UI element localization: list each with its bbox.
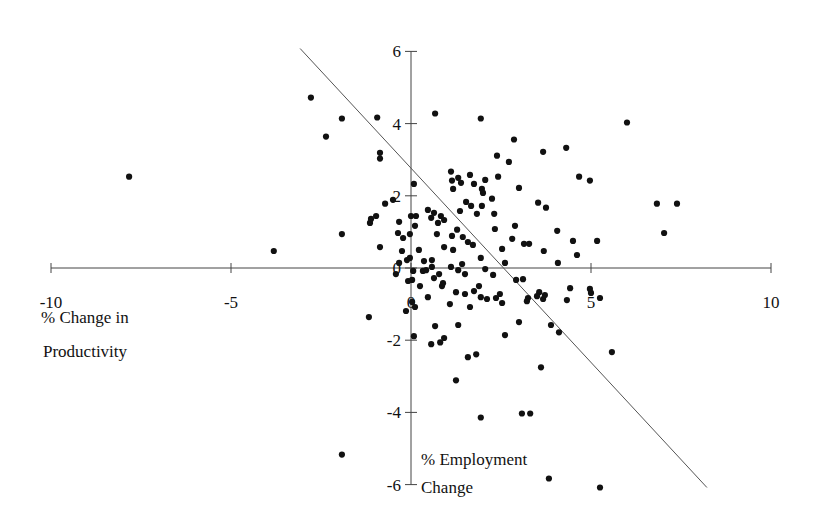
data-point <box>409 299 415 305</box>
data-point <box>564 297 570 303</box>
data-point <box>425 294 431 300</box>
data-point <box>509 236 515 242</box>
x-axis: -10-50510 <box>40 263 780 312</box>
data-point <box>463 199 469 205</box>
data-point <box>506 159 512 165</box>
data-point <box>661 230 667 236</box>
data-point <box>654 201 660 207</box>
data-point <box>407 231 413 237</box>
data-point <box>377 244 383 250</box>
data-point <box>480 190 486 196</box>
data-point <box>455 267 461 273</box>
data-point <box>489 196 495 202</box>
data-point <box>396 219 402 225</box>
y-tick-label: -2 <box>387 331 401 350</box>
data-point <box>421 258 427 264</box>
data-point <box>476 283 482 289</box>
y-axis-title-line2: Change <box>421 478 473 497</box>
data-point <box>543 205 549 211</box>
data-point <box>431 210 437 216</box>
data-point <box>535 200 541 206</box>
data-point <box>478 294 484 300</box>
data-point <box>339 231 345 237</box>
data-point <box>428 341 434 347</box>
data-point <box>609 349 615 355</box>
data-point <box>482 266 488 272</box>
data-point <box>554 228 560 234</box>
data-point <box>423 267 429 273</box>
data-point <box>516 185 522 191</box>
data-point <box>570 238 576 244</box>
data-point <box>597 484 603 490</box>
data-point <box>449 233 455 239</box>
y-tick-label: -6 <box>387 476 401 495</box>
data-point <box>534 293 540 299</box>
data-point <box>411 181 417 187</box>
data-point <box>441 244 447 250</box>
data-point <box>541 248 547 254</box>
data-point <box>271 248 277 254</box>
data-point <box>459 261 465 267</box>
data-point <box>574 252 580 258</box>
data-point <box>429 257 435 263</box>
data-point <box>526 241 532 247</box>
x-tick-label: 10 <box>763 293 780 312</box>
data-point <box>435 220 441 226</box>
data-point <box>410 268 416 274</box>
data-point <box>457 208 463 214</box>
data-point <box>519 410 525 416</box>
data-point <box>474 211 480 217</box>
data-point <box>542 292 548 298</box>
data-point <box>540 149 546 155</box>
data-point <box>597 295 603 301</box>
data-point <box>425 207 431 213</box>
data-point <box>587 178 593 184</box>
x-axis-title-line2: Productivity <box>43 342 128 361</box>
data-point <box>495 174 501 180</box>
data-point <box>513 277 519 283</box>
axis-titles: % Change in Productivity % Employment Ch… <box>41 308 528 497</box>
data-point <box>471 181 477 187</box>
data-point <box>436 271 442 277</box>
data-point <box>403 308 409 314</box>
data-point <box>520 276 526 282</box>
data-point <box>413 213 419 219</box>
data-point <box>493 295 499 301</box>
data-point <box>407 255 413 261</box>
data-point <box>502 260 508 266</box>
data-point <box>555 260 561 266</box>
data-point <box>467 172 473 178</box>
data-point <box>527 410 533 416</box>
data-points <box>126 95 680 491</box>
data-point <box>308 95 314 101</box>
data-point <box>323 134 329 140</box>
data-point <box>396 260 402 266</box>
data-point <box>441 217 447 223</box>
data-point <box>429 264 435 270</box>
data-point <box>447 301 453 307</box>
data-point <box>538 364 544 370</box>
data-point <box>482 177 488 183</box>
data-point <box>126 174 132 180</box>
x-tick-label: -5 <box>224 293 238 312</box>
data-point <box>382 201 388 207</box>
y-tick-label: -4 <box>387 403 402 422</box>
data-point <box>453 289 459 295</box>
y-axis-title-line1: % Employment <box>421 450 528 469</box>
data-point <box>440 280 446 286</box>
data-point <box>432 323 438 329</box>
data-point <box>516 319 522 325</box>
data-point <box>462 271 468 277</box>
data-point <box>431 275 437 281</box>
data-point <box>499 300 505 306</box>
data-point <box>400 235 406 241</box>
data-point <box>393 271 399 277</box>
data-point <box>576 174 582 180</box>
data-point <box>548 322 554 328</box>
data-point <box>563 145 569 151</box>
data-point <box>512 223 518 229</box>
data-point <box>395 230 401 236</box>
data-point <box>478 414 484 420</box>
data-point <box>441 335 447 341</box>
y-tick-label: 4 <box>393 115 402 134</box>
